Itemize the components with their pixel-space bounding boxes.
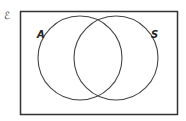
- universal-set-frame: [21, 12, 178, 115]
- set-a-label: A: [36, 29, 45, 40]
- venn-diagram: ℰ A S: [0, 0, 186, 121]
- set-s-circle: [74, 16, 158, 100]
- set-s-label: S: [151, 29, 158, 40]
- set-a-circle: [38, 16, 122, 100]
- universal-set-symbol: ℰ: [4, 10, 10, 21]
